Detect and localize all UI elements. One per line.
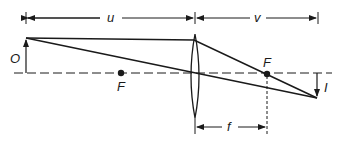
v-label: v xyxy=(254,10,262,25)
focal-point-left-label: F xyxy=(117,79,126,94)
lens-ray-diagram: u v O F F I f xyxy=(0,0,344,141)
central-ray xyxy=(26,38,317,98)
u-dimension: u xyxy=(26,10,195,25)
convex-lens xyxy=(191,34,199,118)
f-label: f xyxy=(227,119,232,134)
u-label: u xyxy=(107,10,114,25)
focal-point-left xyxy=(118,70,124,76)
image-label: I xyxy=(324,80,328,95)
v-dimension: v xyxy=(197,10,318,25)
object-label: O xyxy=(10,51,20,66)
focal-point-right-label: F xyxy=(263,55,272,70)
